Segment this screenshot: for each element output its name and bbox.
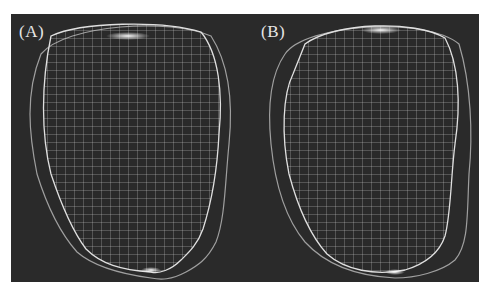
wireframe-mesh-b	[245, 14, 479, 282]
wireframe-mesh-a	[11, 14, 245, 282]
panel-label-b: (B)	[261, 22, 285, 42]
figure-canvas: (A) (B)	[11, 14, 479, 282]
panel-label-a: (A)	[19, 22, 44, 42]
